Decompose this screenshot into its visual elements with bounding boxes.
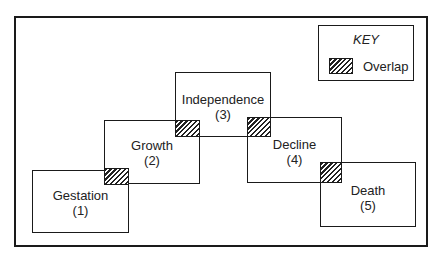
stage-name: Growth [104,138,200,153]
stage-name: Gestation [32,188,129,203]
stage-label-death: Death (5) [320,183,416,213]
stage-label-decline: Decline (4) [247,137,342,167]
legend-title: KEY [319,32,413,47]
stage-label-independence: Independence (3) [175,92,271,122]
stage-number: (4) [247,152,342,167]
stage-label-growth: Growth (2) [104,138,200,168]
stage-name: Decline [247,137,342,152]
overlap-gestation-growth [104,168,129,185]
stage-name: Death [320,183,416,198]
overlap-growth-independence [175,120,200,137]
stage-number: (1) [32,203,129,218]
stage-number: (2) [104,153,200,168]
stage-label-gestation: Gestation (1) [32,188,129,218]
legend-key: KEY Overlap [318,25,414,81]
stage-number: (3) [175,107,271,122]
legend-label-overlap: Overlap [363,59,409,74]
hatched-swatch-icon [329,58,353,74]
stage-number: (5) [320,198,416,213]
stage-name: Independence [175,92,271,107]
